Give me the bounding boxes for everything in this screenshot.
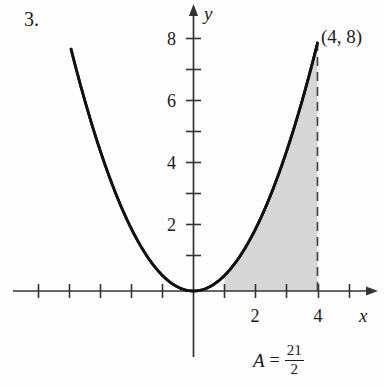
fraction-denominator: 2 [289, 361, 301, 378]
y-tick-label-4: 4 [152, 154, 176, 172]
plot-canvas [0, 0, 385, 387]
y-axis-arrow-icon [189, 4, 198, 16]
parabola-area-figure: 3. y x 8 6 4 2 2 4 (4, 8) A = 21 2 [0, 0, 385, 387]
y-tick-label-6: 6 [152, 92, 176, 110]
x-axis-arrow-icon [366, 286, 378, 295]
y-tick-label-8: 8 [152, 30, 176, 48]
y-tick-label-2: 2 [152, 216, 176, 234]
problem-number: 3. [24, 9, 39, 29]
fraction-numerator: 21 [285, 343, 304, 360]
area-fraction: 21 2 [285, 343, 304, 378]
area-formula: A = 21 2 [253, 343, 304, 378]
y-axis-label: y [204, 4, 212, 23]
point-label-4-8: (4, 8) [321, 27, 362, 46]
shaded-area-region [225, 43, 318, 291]
equals-sign: = [269, 351, 281, 369]
x-tick-label-2: 2 [243, 307, 267, 325]
x-tick-label-4: 4 [306, 307, 330, 325]
x-axis-label: x [359, 306, 367, 325]
area-symbol: A [253, 351, 265, 370]
